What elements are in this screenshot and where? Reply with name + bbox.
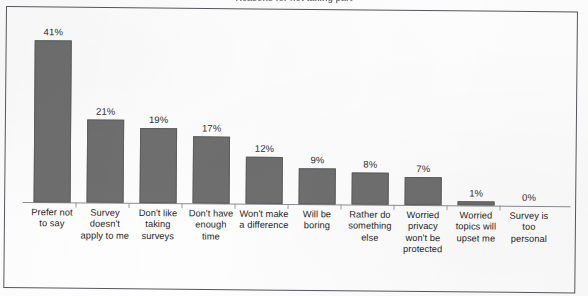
bar-value-label: 8% bbox=[344, 159, 397, 170]
chart-title-clipped: Reasons for not taking part bbox=[0, 0, 588, 3]
bar-value-label: 17% bbox=[185, 122, 238, 133]
bar-value-label: 12% bbox=[238, 142, 291, 153]
bar-value-label: 9% bbox=[291, 154, 344, 165]
bar bbox=[140, 128, 178, 203]
category-label: Don't liketakingsurveys bbox=[129, 208, 186, 243]
bar-value-label: 1% bbox=[450, 187, 503, 198]
bar-series: 41%21%19%17%12%9%8%7%1%0% bbox=[23, 24, 572, 206]
category-label: Prefer notto say bbox=[23, 207, 80, 230]
bar-value-label: 7% bbox=[397, 163, 450, 174]
bar-slot: 1% bbox=[450, 27, 504, 205]
category-label: Worriedprivacywon't beprotected bbox=[394, 210, 451, 256]
category-label: Rather dosomethingelse bbox=[341, 209, 398, 244]
bar bbox=[299, 169, 336, 205]
bar-slot: 41% bbox=[26, 24, 80, 202]
bar-chart: 41%21%19%17%12%9%8%7%1%0% Prefer notto s… bbox=[6, 6, 574, 294]
category-label: Will beboring bbox=[288, 209, 345, 232]
bar-value-label: 41% bbox=[27, 26, 80, 37]
category-label: Survey istoopersonal bbox=[500, 211, 557, 246]
bar bbox=[405, 177, 442, 205]
category-label: Worriedtopics willupset me bbox=[447, 210, 504, 245]
bar-slot: 21% bbox=[79, 25, 133, 203]
bar bbox=[352, 173, 389, 205]
scanned-page: Reasons for not taking part 41%21%19%17%… bbox=[0, 0, 588, 296]
bar-slot: 9% bbox=[291, 26, 345, 204]
bar bbox=[246, 156, 283, 204]
category-label: Surveydoesn'tapply to me bbox=[76, 208, 133, 243]
bar bbox=[458, 201, 495, 205]
category-label: Don't haveenoughtime bbox=[182, 208, 239, 243]
bar-value-label: 0% bbox=[503, 192, 556, 203]
bar-slot: 7% bbox=[397, 27, 451, 205]
category-label: Won't makea difference bbox=[235, 209, 292, 232]
bar-slot: 12% bbox=[238, 26, 292, 204]
bar-slot: 17% bbox=[185, 25, 239, 203]
bar-slot: 8% bbox=[344, 26, 398, 204]
bar-slot: 19% bbox=[132, 25, 186, 203]
bar-value-label: 19% bbox=[132, 114, 185, 125]
bar bbox=[87, 120, 125, 203]
bar-slot: 0% bbox=[503, 28, 557, 206]
bar-value-label: 21% bbox=[79, 105, 132, 116]
bar bbox=[34, 40, 72, 202]
bar bbox=[193, 136, 230, 204]
x-axis-category-labels: Prefer notto saySurveydoesn'tapply to me… bbox=[22, 207, 570, 281]
